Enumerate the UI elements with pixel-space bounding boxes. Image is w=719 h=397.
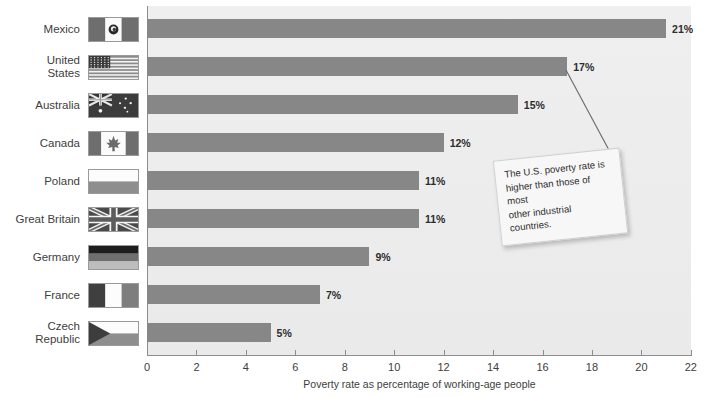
flag-united-states-icon xyxy=(88,55,139,80)
x-axis-tick-mark xyxy=(444,350,445,356)
x-axis-tick-label: 10 xyxy=(374,361,414,373)
row-label-great-britain: Great Britain xyxy=(0,200,80,238)
row-label-czech-republic: Czech Republic xyxy=(0,314,80,352)
x-axis-tick-mark xyxy=(641,350,642,356)
x-axis-tick-mark xyxy=(394,350,395,356)
chart-row: UnitedStates 17% xyxy=(0,48,719,86)
flag-great-britain-icon xyxy=(88,207,139,232)
bar xyxy=(147,133,444,152)
x-axis-tick-label: 0 xyxy=(127,361,167,373)
callout-annotation: The U.S. poverty rate is higher than tho… xyxy=(493,148,628,246)
row-label-mexico: Mexico xyxy=(0,10,80,48)
x-axis-tick-label: 20 xyxy=(621,361,661,373)
x-axis-tick-label: 2 xyxy=(176,361,216,373)
row-label-united-states: UnitedStates xyxy=(0,48,80,86)
bar-value-label: 21% xyxy=(672,19,693,38)
x-axis-tick-label: 18 xyxy=(572,361,612,373)
x-axis-tick-mark xyxy=(493,350,494,356)
bar-value-label: 5% xyxy=(277,323,292,342)
x-axis-tick-mark xyxy=(345,350,346,356)
bar-value-label: 11% xyxy=(425,171,445,190)
bar-value-label: 15% xyxy=(524,95,545,114)
x-axis-tick-label: 8 xyxy=(325,361,365,373)
bar-value-label: 9% xyxy=(375,247,390,266)
bar xyxy=(147,247,369,266)
chart-row: France 7% xyxy=(0,276,719,314)
flag-canada-icon xyxy=(88,131,139,156)
row-label-poland: Poland xyxy=(0,162,80,200)
bar-value-label: 12% xyxy=(450,133,471,152)
flag-mexico-icon xyxy=(88,17,139,42)
bar xyxy=(147,57,567,76)
x-axis-tick-mark xyxy=(147,350,148,356)
x-axis-tick-mark xyxy=(592,350,593,356)
bar-value-label: 7% xyxy=(326,285,341,304)
bar xyxy=(147,95,518,114)
x-axis-tick-mark xyxy=(196,350,197,356)
x-axis-line xyxy=(147,355,692,356)
x-axis-tick-label: 22 xyxy=(671,361,711,373)
x-axis-tick-mark xyxy=(691,350,692,356)
bar xyxy=(147,285,320,304)
row-label-germany: Germany xyxy=(0,238,80,276)
row-label-canada: Canada xyxy=(0,124,80,162)
row-label-australia: Australia xyxy=(0,86,80,124)
flag-czech-republic-icon xyxy=(88,321,139,346)
bar-value-label: 11% xyxy=(425,209,445,228)
x-axis-title: Poverty rate as percentage of working-ag… xyxy=(148,378,691,390)
x-axis-tick-label: 16 xyxy=(523,361,563,373)
bar xyxy=(147,323,271,342)
flag-poland-icon xyxy=(88,169,139,194)
row-label-france: France xyxy=(0,276,80,314)
chart-row: Australia 15% xyxy=(0,86,719,124)
x-axis-tick-mark xyxy=(543,350,544,356)
flag-germany-icon xyxy=(88,245,139,270)
bar-chart: Mexico 21%UnitedStates 17%Australia xyxy=(0,0,719,397)
x-axis-tick-label: 4 xyxy=(226,361,266,373)
flag-france-icon xyxy=(88,283,139,308)
flag-australia-icon xyxy=(88,93,139,118)
bar xyxy=(147,209,419,228)
x-axis-tick-mark xyxy=(295,350,296,356)
bar xyxy=(147,19,666,38)
x-axis-tick-label: 12 xyxy=(424,361,464,373)
bar xyxy=(147,171,419,190)
chart-row: Mexico 21% xyxy=(0,10,719,48)
chart-row: Germany 9% xyxy=(0,238,719,276)
x-axis-tick-label: 6 xyxy=(275,361,315,373)
bar-value-label: 17% xyxy=(573,57,594,76)
x-axis-tick-mark xyxy=(246,350,247,356)
x-axis-tick-label: 14 xyxy=(473,361,513,373)
chart-row: Czech Republic 5% xyxy=(0,314,719,352)
